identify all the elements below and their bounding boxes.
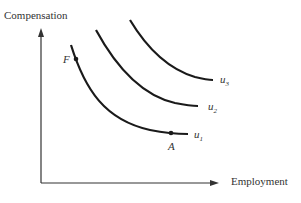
point-F <box>74 57 79 62</box>
curve-u2 <box>96 30 198 106</box>
curve-u3 <box>130 20 213 80</box>
curve-u1 <box>71 45 188 134</box>
curve-u2-label-sub: 2 <box>214 107 218 115</box>
curve-u1-label-sub: 1 <box>200 135 204 143</box>
point-A-label: A <box>168 140 175 152</box>
point-A <box>169 131 174 136</box>
curve-u2-label: u2 <box>208 100 217 115</box>
x-axis-label: Employment <box>231 175 288 187</box>
x-axis-arrow-icon <box>210 180 219 186</box>
indifference-diagram <box>0 0 301 203</box>
curve-u3-label-sub: 3 <box>226 80 230 88</box>
curve-u1-label: u1 <box>194 128 203 143</box>
point-F-label: F <box>63 53 70 65</box>
y-axis-label: Compensation <box>4 9 68 21</box>
curve-u3-label: u3 <box>220 73 229 88</box>
y-axis-arrow-icon <box>38 28 44 37</box>
